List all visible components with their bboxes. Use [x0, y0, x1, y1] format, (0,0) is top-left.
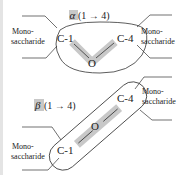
beta-left-mono-line2: saccharide	[11, 152, 45, 161]
beta-right-mono-line1: Mono-	[142, 87, 164, 96]
beta-label: (1 → 4)	[44, 100, 76, 112]
alpha-c1-label: C-1	[57, 32, 74, 44]
beta-symbol: β	[34, 99, 41, 111]
alpha-ring-outline	[56, 22, 147, 73]
beta-c1-label: C-1	[57, 144, 74, 156]
beta-oxygen-label: O	[91, 120, 99, 132]
alpha-symbol: α	[70, 9, 76, 21]
beta-linkage-panel: β (1 → 4) C-1 C-4 O Mono- saccharide Mon…	[11, 76, 176, 175]
alpha-left-lower-leader	[22, 46, 57, 58]
alpha-oxygen-label: O	[88, 57, 96, 69]
beta-right-mono-line2: saccharide	[142, 97, 176, 106]
alpha-linkage-panel: α (1 → 4) C-1 C-4 O Mono- saccharide Mon…	[11, 9, 175, 73]
beta-left-mono-line1: Mono-	[12, 142, 34, 151]
alpha-right-upper-leader	[137, 15, 172, 27]
glycosidic-linkage-diagram: α (1 → 4) C-1 C-4 O Mono- saccharide Mon…	[0, 0, 193, 175]
beta-right-lower-leader	[140, 110, 172, 120]
alpha-right-mono-line2: saccharide	[141, 37, 175, 46]
alpha-c4-label: C-4	[117, 32, 134, 44]
alpha-right-mono-line1: Mono-	[141, 27, 163, 36]
alpha-left-mono-line2: saccharide	[11, 37, 45, 46]
alpha-left-mono-line1: Mono-	[12, 27, 34, 36]
alpha-label: (1 → 4)	[78, 10, 110, 22]
beta-left-upper-leader	[22, 127, 61, 140]
alpha-right-lower-leader	[137, 45, 172, 58]
beta-c4-label: C-4	[117, 92, 134, 104]
